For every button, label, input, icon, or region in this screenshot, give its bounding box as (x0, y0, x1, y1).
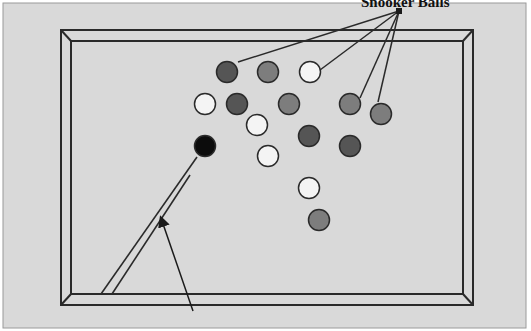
snooker-diagram: Snooker Balls (0, 0, 531, 331)
snooker-ball-medium (258, 62, 279, 83)
snooker-ball-medium (309, 210, 330, 231)
snooker-ball-medium (340, 94, 361, 115)
snooker-ball-dark (340, 136, 361, 157)
snooker-ball-white (300, 62, 321, 83)
snooker-ball-dark (217, 62, 238, 83)
diagram-canvas (0, 0, 531, 331)
cue-ball-black (195, 136, 216, 157)
snooker-balls-label: Snooker Balls (361, 0, 450, 11)
snooker-ball-medium (279, 94, 300, 115)
snooker-ball-medium (371, 104, 392, 125)
snooker-ball-white (299, 178, 320, 199)
snooker-ball-white (258, 146, 279, 167)
snooker-ball-dark (299, 126, 320, 147)
snooker-ball-white (247, 115, 268, 136)
snooker-ball-dark (227, 94, 248, 115)
snooker-ball-white (195, 94, 216, 115)
